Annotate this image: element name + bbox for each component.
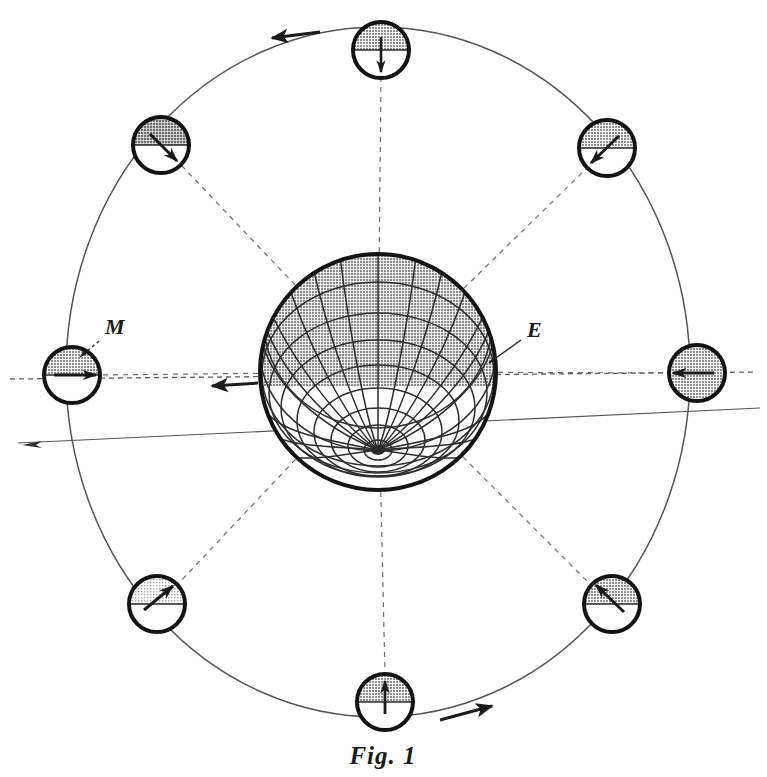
moon-bottom[interactable]: [357, 674, 413, 730]
figure-canvas: M E Fig. 1: [0, 0, 767, 777]
moon-top-left[interactable]: [133, 117, 189, 173]
earth-south-pole: [371, 445, 385, 455]
figure-root: M E Fig. 1: [0, 0, 767, 777]
earth-label: E: [526, 317, 542, 342]
figure-caption: Fig. 1: [348, 742, 416, 769]
moon-top[interactable]: [353, 22, 409, 78]
moon-top-right[interactable]: [579, 120, 635, 176]
moon-bottom-right[interactable]: [584, 576, 640, 632]
moon-left[interactable]: [44, 347, 100, 403]
moon-bottom-left[interactable]: [129, 576, 185, 632]
moon-right[interactable]: [669, 345, 725, 401]
moon-label: M: [104, 314, 126, 339]
